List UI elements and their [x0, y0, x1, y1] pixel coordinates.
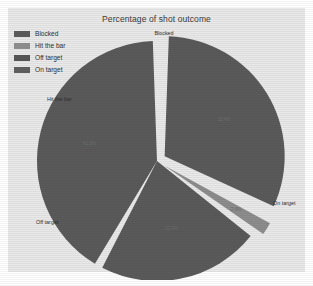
pie-chart-area: 32.4% 2.8% 22.9% 41.9% Blocked Hit the b…	[16, 16, 313, 280]
slice-value-on-target: 41.9%	[83, 141, 96, 146]
pie-slices	[37, 36, 285, 280]
pie-chart-svg: 32.4% 2.8% 22.9% 41.9% Blocked Hit the b…	[16, 16, 313, 280]
slice-value-off-target: 22.9%	[165, 226, 178, 231]
outer-label-blocked: Blocked	[154, 30, 173, 36]
outer-label-hit-the-bar: Hit the bar	[47, 96, 72, 102]
slice-value-hit-the-bar: 2.8%	[231, 207, 241, 212]
chart-panel: Percentage of shot outcome Blocked Hit t…	[8, 8, 305, 272]
slice-value-blocked: 32.4%	[217, 117, 230, 122]
outer-label-off-target: Off target	[36, 219, 59, 225]
chart-screenshot: Percentage of shot outcome Blocked Hit t…	[0, 0, 313, 286]
outer-label-on-target: On target	[273, 200, 296, 206]
